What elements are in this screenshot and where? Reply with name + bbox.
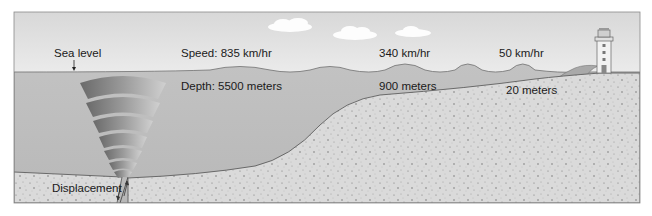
depth-deep-label: Depth: 5500 meters	[181, 80, 282, 92]
speed-deep-label: Speed: 835 km/hr	[181, 47, 272, 59]
depth-mid-label: 900 meters	[379, 80, 437, 92]
sea-level-label: Sea level	[54, 47, 101, 59]
displacement-label: Displacement	[52, 182, 122, 194]
depth-shallow-label: 20 meters	[506, 84, 557, 96]
tsunami-diagram: Sea level Speed: 835 km/hr Depth: 5500 m…	[0, 0, 652, 216]
speed-mid-label: 340 km/hr	[379, 47, 430, 59]
lighthouse-icon	[595, 28, 613, 73]
speed-shallow-label: 50 km/hr	[499, 47, 544, 59]
